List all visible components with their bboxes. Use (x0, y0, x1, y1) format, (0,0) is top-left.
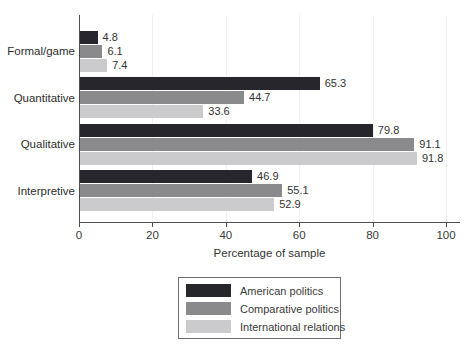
legend-label: International relations (240, 321, 345, 333)
bar-group: 65.344.733.6 (80, 75, 460, 122)
x-tick-label: 100 (436, 229, 455, 241)
bar-chart-figure: Formal/gameQuantitativeQualitativeInterp… (0, 0, 476, 352)
bar-row: 33.6 (80, 105, 460, 118)
bar (80, 198, 274, 211)
bar-value-label: 4.8 (103, 31, 118, 44)
legend-item: Comparative politics (186, 302, 332, 315)
bar-group: 79.891.191.8 (80, 121, 460, 168)
x-axis-title: Percentage of sample (79, 247, 460, 259)
bar-row: 44.7 (80, 91, 460, 104)
x-tick (79, 222, 80, 227)
legend-swatch (186, 302, 231, 315)
bar-row: 7.4 (80, 59, 460, 72)
category-label: Qualitative (0, 121, 75, 168)
bar-value-label: 65.3 (325, 77, 346, 90)
bar-group: 4.86.17.4 (80, 28, 460, 75)
bar-row: 52.9 (80, 198, 460, 211)
bar-value-label: 55.1 (287, 184, 308, 197)
bar-row: 91.8 (80, 152, 460, 165)
legend-swatch (186, 320, 231, 333)
x-tick (446, 222, 447, 227)
legend-label: American politics (240, 285, 323, 297)
legend-item: International relations (186, 320, 332, 333)
legend-swatch (186, 284, 231, 297)
bar-groups: 4.86.17.465.344.733.679.891.191.846.955.… (80, 28, 460, 214)
x-tick (299, 222, 300, 227)
x-tick (373, 222, 374, 227)
category-label: Quantitative (0, 75, 75, 122)
bar-row: 55.1 (80, 184, 460, 197)
bar-value-label: 91.1 (419, 138, 440, 151)
legend-label: Comparative politics (240, 303, 339, 315)
bar (80, 184, 282, 197)
bar-value-label: 46.9 (257, 170, 278, 183)
bar-row: 46.9 (80, 170, 460, 183)
bar (80, 31, 98, 44)
bar-value-label: 91.8 (422, 152, 443, 165)
bar-row: 91.1 (80, 138, 460, 151)
bar-row: 4.8 (80, 31, 460, 44)
bar (80, 91, 244, 104)
x-tick (152, 222, 153, 227)
category-label: Interpretive (0, 168, 75, 215)
bar-value-label: 44.7 (249, 91, 270, 104)
bar-row: 6.1 (80, 45, 460, 58)
x-tick-label: 0 (76, 229, 82, 241)
legend-item: American politics (186, 284, 332, 297)
bar (80, 152, 417, 165)
x-tick-label: 80 (366, 229, 379, 241)
bar-value-label: 7.4 (112, 59, 127, 72)
bar (80, 170, 252, 183)
bar (80, 138, 414, 151)
bar-value-label: 33.6 (208, 105, 229, 118)
bar-value-label: 52.9 (279, 198, 300, 211)
x-tick-label: 20 (146, 229, 159, 241)
bar-row: 79.8 (80, 124, 460, 137)
bar (80, 45, 102, 58)
bar-value-label: 79.8 (378, 124, 399, 137)
bar (80, 77, 320, 90)
bar (80, 124, 373, 137)
bar (80, 59, 107, 72)
legend-items: American politicsComparative politicsInt… (186, 284, 332, 333)
bar-row: 65.3 (80, 77, 460, 90)
x-tick-label: 60 (293, 229, 306, 241)
x-tick-label: 40 (219, 229, 232, 241)
bar-group: 46.955.152.9 (80, 168, 460, 215)
bar-value-label: 6.1 (107, 45, 122, 58)
x-axis-line (79, 222, 460, 223)
category-label: Formal/game (0, 28, 75, 75)
bar (80, 105, 203, 118)
legend: American politicsComparative politicsInt… (178, 277, 341, 339)
x-tick (226, 222, 227, 227)
category-labels: Formal/gameQuantitativeQualitativeInterp… (0, 28, 75, 214)
